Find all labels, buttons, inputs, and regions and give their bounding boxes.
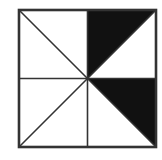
diagonal-bottom-left [19, 79, 88, 148]
diagonal-top-left [19, 10, 88, 79]
pinwheel-square-diagram [0, 0, 162, 160]
